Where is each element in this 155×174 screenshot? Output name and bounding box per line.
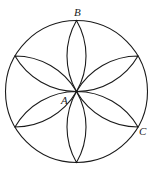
label-c: C (139, 125, 147, 137)
label-b: B (74, 6, 81, 18)
petal (67, 92, 86, 163)
petal (67, 21, 86, 92)
label-a: A (60, 94, 68, 106)
rosette-diagram: B A C (0, 0, 155, 174)
figure-lines (6, 21, 148, 163)
